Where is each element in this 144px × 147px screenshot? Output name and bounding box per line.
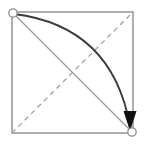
diagram-svg <box>0 0 144 147</box>
vertex-bottom-right <box>128 128 136 136</box>
diagram-canvas <box>0 0 144 147</box>
vertex-top-left <box>9 9 17 17</box>
